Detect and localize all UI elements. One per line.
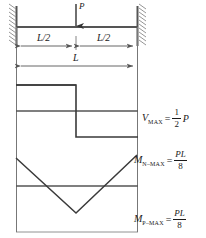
shear-max-subscript: MAX [148,119,163,125]
shear-max-fraction: 1 2 [172,108,181,129]
moment-diagram [16,155,138,213]
positive-moment-equals: = [166,215,172,225]
positive-moment-numerator: PL [173,209,186,219]
dimension-label-full: L [73,53,79,63]
shear-diagram [16,85,138,137]
annotation-shear-max: VMAX = 1 2 P [142,108,189,129]
moment-curve [16,155,137,213]
shear-max-numerator: 1 [174,108,181,118]
dimension-label-right-half: L/2 [97,33,110,43]
negative-moment-numerator: PL [174,150,187,160]
left-fixed-support [9,4,17,46]
positive-moment-fraction: PL 8 [173,209,186,230]
annotation-negative-moment-max: MN–MAX = PL 8 [134,150,187,171]
positive-moment-subscript: P–MAX [142,220,163,226]
shear-max-tail: P [183,114,189,124]
beam-diagram-figure: P L/2 L/2 L VMAX = 1 2 P MN–MAX = PL 8 M… [0,0,206,238]
negative-moment-subscript: N–MAX [142,161,164,167]
negative-moment-fraction: PL 8 [174,150,187,171]
dimension-label-left-half: L/2 [37,33,50,43]
load-label-P: P [79,2,85,11]
right-fixed-support [138,4,147,46]
negative-moment-denominator: 8 [177,161,184,171]
shear-max-denominator: 2 [174,119,181,129]
negative-moment-equals: = [167,156,173,166]
positive-moment-denominator: 8 [176,220,183,230]
annotation-positive-moment-max: MP–MAX = PL 8 [134,209,186,230]
shear-max-equals: = [165,114,171,124]
